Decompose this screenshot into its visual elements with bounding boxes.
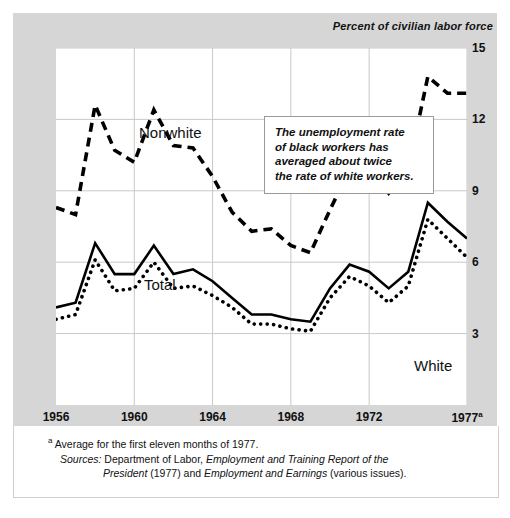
y-tick-label: 6 [472, 255, 479, 269]
sources-label: Sources: [60, 453, 104, 465]
y-axis-title: Percent of civilian labor force [333, 20, 493, 32]
series-label-nonwhite: Nonwhite [139, 124, 202, 141]
sources-title-3: Employment and Earnings [204, 467, 327, 479]
footnote-note: a Average for the first eleven months of… [48, 436, 258, 450]
x-tick-label: 1964 [199, 410, 226, 424]
series-label-white: White [414, 357, 452, 374]
sources-title-1: Employment and Training Report of the [206, 453, 388, 465]
y-tick-label: 15 [472, 41, 485, 55]
chart-figure: Percent of civilian labor force Nonwhite… [0, 0, 510, 518]
x-tick-label: 1972 [356, 410, 383, 424]
series-paths [56, 77, 467, 332]
gridlines [56, 48, 467, 405]
plot-svg [56, 48, 467, 405]
y-tick-label: 3 [472, 327, 479, 341]
x-tick-label: 1977a [451, 410, 482, 425]
y-tick-label: 9 [472, 184, 479, 198]
sources-title-2: President [103, 467, 147, 479]
annotation-callout-text: The unemployment rate of black workers h… [275, 125, 424, 184]
annotation-callout: The unemployment rate of black workers h… [264, 116, 434, 194]
y-tick-label: 12 [472, 112, 485, 126]
sources-line-2: President (1977) and Employment and Earn… [60, 467, 490, 481]
series-label-total: Total [144, 276, 176, 293]
x-tick-label: 1956 [43, 410, 70, 424]
footnote-panel: a Average for the first eleven months of… [13, 426, 499, 498]
x-tick-label: 1968 [277, 410, 304, 424]
plot-area: Nonwhite Total White The unemployment ra… [56, 48, 467, 405]
x-tick-label: 1960 [121, 410, 148, 424]
footnote-sources: Sources: Department of Labor, Employment… [60, 453, 490, 481]
footnote-marker: a [48, 436, 52, 445]
